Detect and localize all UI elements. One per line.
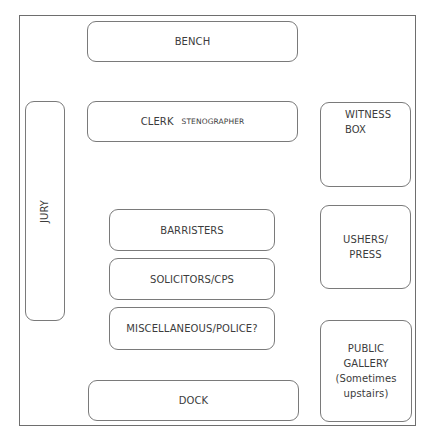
witness-line-1: WITNESS — [345, 107, 391, 122]
jury-box: JURY — [25, 101, 65, 321]
misc-police-box: MISCELLANEOUS/POLICE? — [109, 307, 275, 350]
ushers-press-box: USHERS/ PRESS — [320, 205, 411, 289]
witness-box: WITNESS BOX — [320, 102, 411, 187]
jury-label: JURY — [38, 199, 53, 222]
barristers-label: BARRISTERS — [160, 223, 224, 238]
ushers-line-2: PRESS — [349, 247, 382, 262]
bench-box: BENCH — [87, 21, 298, 62]
bench-label: BENCH — [175, 34, 211, 49]
witness-line-2: BOX — [345, 122, 366, 137]
gallery-line-4: upstairs) — [344, 386, 389, 401]
clerk-box: CLERK STENOGRAPHER — [87, 101, 298, 142]
dock-box: DOCK — [88, 380, 299, 421]
solicitors-box: SOLICITORS/CPS — [109, 258, 275, 300]
stenographer-label: STENOGRAPHER — [182, 114, 245, 129]
public-gallery-box: PUBLIC GALLERY (Sometimes upstairs) — [320, 320, 412, 422]
gallery-line-3: (Sometimes — [335, 371, 396, 386]
gallery-line-2: GALLERY — [343, 356, 388, 371]
dock-label: DOCK — [179, 393, 209, 408]
ushers-line-1: USHERS/ — [343, 232, 388, 247]
solicitors-label: SOLICITORS/CPS — [150, 272, 234, 287]
misc-label: MISCELLANEOUS/POLICE? — [126, 321, 257, 336]
clerk-label: CLERK — [141, 114, 174, 129]
barristers-box: BARRISTERS — [109, 209, 275, 251]
gallery-line-1: PUBLIC — [348, 341, 384, 356]
